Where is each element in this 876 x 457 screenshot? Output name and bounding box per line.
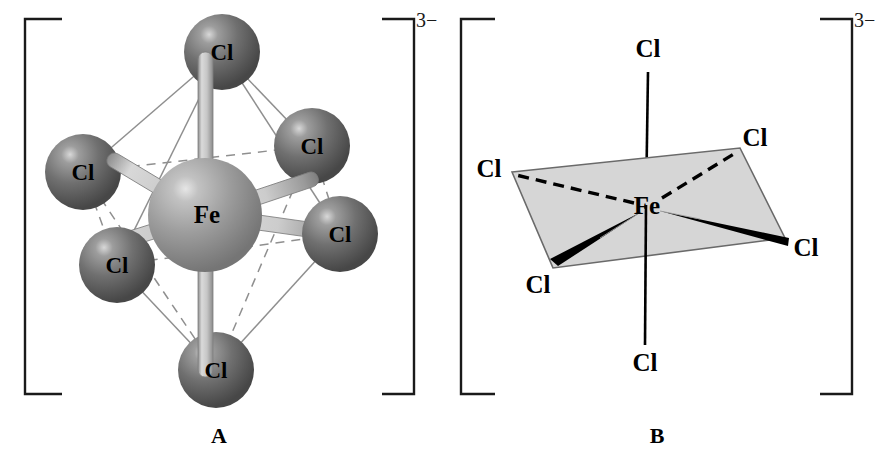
bracket-right-b (820, 19, 852, 394)
panel-b-drawing (438, 0, 876, 457)
ligand-sphere-rear-left (45, 134, 121, 210)
ligand-sphere-front-right (302, 196, 378, 272)
charge-label-b: 3− (854, 10, 875, 30)
bracket-left-b (461, 19, 495, 394)
ligand-sphere-front-left (79, 227, 155, 303)
metal-sphere-fe (148, 158, 262, 272)
bracket-left-a (25, 19, 62, 394)
charge-label-a: 3− (416, 10, 437, 30)
panel-a-drawing (0, 0, 438, 457)
ligand-sphere-axial-bottom (178, 332, 254, 408)
panel-caption-b: B (438, 423, 876, 449)
panel-a-ball-and-stick: Cl Cl Cl Cl Cl Cl Fe 3− A (0, 0, 438, 457)
panel-caption-a: A (0, 423, 438, 449)
bond-axial-bottom-b (645, 205, 646, 345)
bracket-right-a (382, 19, 414, 394)
molecular-structure-figure: Cl Cl Cl Cl Cl Cl Fe 3− A (0, 0, 876, 457)
ligand-sphere-axial-top (184, 14, 260, 90)
panel-b-wedge-dash: Cl Cl Cl Cl Cl Cl Fe 3− B (438, 0, 876, 457)
equatorial-plane (512, 148, 785, 268)
